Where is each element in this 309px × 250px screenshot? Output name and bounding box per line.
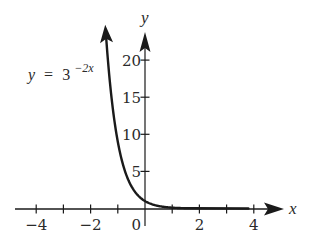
- y-tick-labels: 5101520: [122, 52, 141, 181]
- x-tick-label: −4: [25, 216, 47, 234]
- x-tick-label: −2: [80, 216, 102, 234]
- equation-exponent: −2x: [74, 61, 94, 75]
- y-tick-label: 15: [122, 89, 141, 107]
- x-tick-label: 0: [131, 216, 141, 234]
- equation-label: y = 3 −2x: [26, 61, 94, 84]
- x-tick-labels: −4−2024: [25, 216, 258, 234]
- y-axis-label: y: [139, 8, 149, 27]
- y-tick-label: 10: [122, 126, 141, 144]
- equation-lhs: y: [26, 66, 36, 84]
- y-tick-label: 20: [122, 52, 141, 70]
- equation-equals: =: [44, 66, 53, 83]
- y-tick-label: 5: [131, 163, 141, 181]
- exponential-graph: −4−2024 x 5101520 y y = 3 −2x: [0, 0, 309, 250]
- x-axis-label: x: [288, 199, 297, 218]
- x-tick-label: 4: [249, 216, 259, 234]
- equation-base: 3: [62, 66, 70, 83]
- x-tick-label: 2: [195, 216, 205, 234]
